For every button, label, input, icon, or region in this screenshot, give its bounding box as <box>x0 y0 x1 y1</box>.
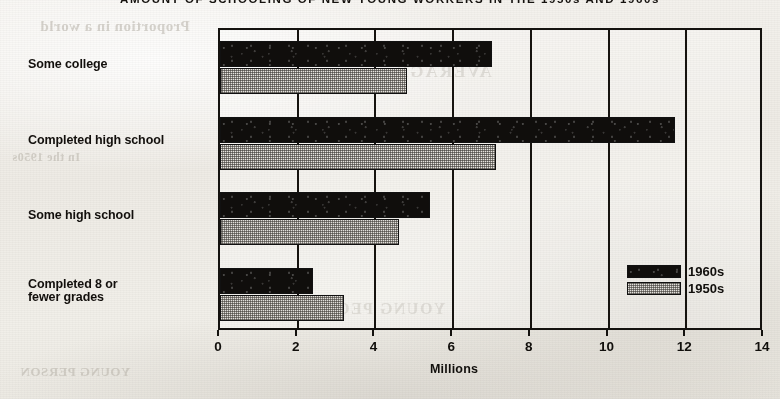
x-tick-label-6: 6 <box>447 339 455 354</box>
category-label-line: Some college <box>28 58 107 71</box>
legend-label-1960s: 1960s <box>688 264 724 279</box>
legend-item-1960s: 1960s <box>627 264 724 279</box>
x-axis-label: Millions <box>430 362 478 376</box>
bar-1960s-3 <box>220 192 430 218</box>
category-label-3: Some high school <box>28 209 134 222</box>
category-label-line: fewer grades <box>28 291 118 304</box>
chart-title: AMOUNT OF SCHOOLING OF NEW YOUNG WORKERS… <box>0 0 780 5</box>
gridline-6 <box>452 30 454 328</box>
category-label-2: Completed high school <box>28 134 164 147</box>
legend-item-1950s: 1950s <box>627 281 724 296</box>
x-tick-mark-6 <box>450 330 452 336</box>
ghost-text: In the 1950s <box>12 150 80 165</box>
x-tick-label-8: 8 <box>525 339 533 354</box>
x-tick-label-10: 10 <box>599 339 614 354</box>
ghost-text: Proportion in a world <box>40 18 190 35</box>
x-tick-label-12: 12 <box>677 339 692 354</box>
x-tick-mark-12 <box>683 330 685 336</box>
x-tick-mark-0 <box>217 330 219 336</box>
legend-swatch-1960s <box>627 265 681 278</box>
x-tick-label-0: 0 <box>214 339 222 354</box>
legend-label-1950s: 1950s <box>688 281 724 296</box>
chart-legend: 1960s1950s <box>624 262 727 301</box>
category-label-line: Some high school <box>28 209 134 222</box>
bar-1950s-3 <box>220 219 399 245</box>
gridline-8 <box>530 30 532 328</box>
bar-1960s-4 <box>220 268 313 294</box>
x-tick-label-4: 4 <box>370 339 378 354</box>
category-label-line: Completed high school <box>28 134 164 147</box>
x-tick-mark-2 <box>295 330 297 336</box>
bar-1950s-1 <box>220 68 407 94</box>
gridline-10 <box>608 30 610 328</box>
x-tick-mark-4 <box>372 330 374 336</box>
legend-swatch-1950s <box>627 282 681 295</box>
category-label-1: Some college <box>28 58 107 71</box>
category-label-4: Completed 8 orfewer grades <box>28 278 118 304</box>
x-tick-label-2: 2 <box>292 339 300 354</box>
bar-1960s-1 <box>220 41 492 67</box>
x-tick-mark-14 <box>761 330 763 336</box>
bar-1950s-2 <box>220 144 496 170</box>
x-tick-mark-8 <box>528 330 530 336</box>
bar-1950s-4 <box>220 295 344 321</box>
bar-1960s-2 <box>220 117 675 143</box>
x-tick-mark-10 <box>606 330 608 336</box>
x-tick-label-14: 14 <box>754 339 769 354</box>
ghost-text: YOUNG PERSON <box>20 364 130 380</box>
